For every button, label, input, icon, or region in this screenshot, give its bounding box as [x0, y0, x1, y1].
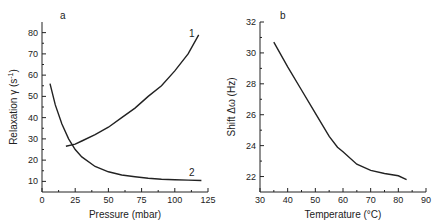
y-tick-label: 28: [246, 79, 256, 89]
panel-b: 30405060708090222426283032bTemperature (…: [226, 10, 431, 220]
curve-label-1: 1: [189, 28, 195, 39]
x-tick-label: 40: [283, 195, 293, 205]
chart-figure: 02550751001251020304050607080aPressure (…: [0, 0, 439, 223]
y-tick-label: 40: [28, 113, 38, 123]
panel-label: a: [60, 10, 66, 21]
y-tick-label: 60: [28, 70, 38, 80]
y-tick-label: 30: [28, 134, 38, 144]
y-tick-label: 10: [28, 176, 38, 186]
x-tick-label: 30: [255, 195, 265, 205]
y-tick-label: 32: [246, 17, 256, 27]
x-axis-title: Temperature (°C): [305, 209, 382, 220]
curve-label-2: 2: [189, 167, 195, 178]
x-tick-label: 50: [310, 195, 320, 205]
x-tick-label: 0: [39, 195, 44, 205]
x-axis-title: Pressure (mbar): [89, 209, 161, 220]
x-tick-label: 90: [421, 195, 431, 205]
data-series-1: [66, 35, 199, 147]
x-tick-label: 25: [70, 195, 80, 205]
y-tick-label: 22: [246, 172, 256, 182]
x-tick-label: 125: [200, 195, 215, 205]
x-tick-label: 70: [366, 195, 376, 205]
x-tick-label: 75: [137, 195, 147, 205]
y-tick-label: 80: [28, 28, 38, 38]
y-axis-title: Shift Δω (Hz): [226, 78, 237, 137]
data-series-shift: [274, 42, 407, 180]
y-tick-label: 30: [246, 48, 256, 58]
panel-a: 02550751001251020304050607080aPressure (…: [7, 10, 216, 220]
y-tick-label: 50: [28, 91, 38, 101]
x-tick-label: 100: [167, 195, 182, 205]
panel-label: b: [280, 10, 286, 21]
y-axis-title: Relaxation γ (s-1): [7, 69, 19, 145]
y-tick-label: 24: [246, 141, 256, 151]
x-tick-label: 60: [338, 195, 348, 205]
x-tick-label: 50: [103, 195, 113, 205]
data-series-2: [50, 84, 201, 181]
y-tick-label: 26: [246, 110, 256, 120]
y-tick-label: 20: [28, 155, 38, 165]
y-tick-label: 70: [28, 49, 38, 59]
x-tick-label: 80: [393, 195, 403, 205]
